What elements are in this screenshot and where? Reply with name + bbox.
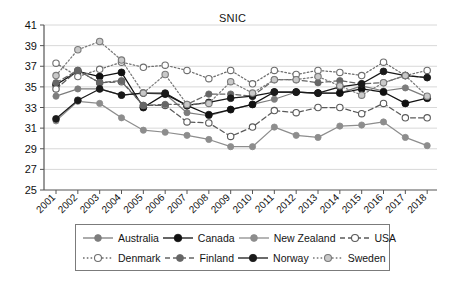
legend-item-usa[interactable]: USA xyxy=(338,231,403,245)
data-point xyxy=(227,133,233,139)
legend-row: AustraliaCanadaNew ZealandUSA xyxy=(81,228,384,248)
data-point xyxy=(184,101,190,107)
legend-marker xyxy=(174,234,182,242)
series-line xyxy=(56,101,427,146)
data-point xyxy=(162,101,168,107)
y-axis-tick-label: 41 xyxy=(25,19,37,31)
data-point xyxy=(227,79,233,85)
data-point xyxy=(271,107,277,113)
data-point xyxy=(184,67,190,73)
data-point xyxy=(271,89,278,96)
x-axis-tick-label: 2002 xyxy=(56,191,80,215)
legend-symbol-sweden xyxy=(311,251,345,265)
data-point xyxy=(359,122,365,128)
series-line xyxy=(56,42,427,105)
chart-legend: AustraliaCanadaNew ZealandUSA DenmarkFin… xyxy=(75,224,390,271)
legend-marker xyxy=(249,254,256,261)
data-point xyxy=(424,115,430,121)
data-point xyxy=(293,132,299,138)
legend-item-finland[interactable]: Finland xyxy=(163,251,236,265)
y-axis-tick-label: 29 xyxy=(25,143,37,155)
data-point xyxy=(358,80,365,87)
data-point xyxy=(315,90,322,97)
data-point xyxy=(162,129,168,135)
data-point xyxy=(97,100,103,106)
series-line xyxy=(56,62,427,84)
data-point xyxy=(96,66,102,72)
y-axis-tick-label: 33 xyxy=(25,102,37,114)
data-point xyxy=(140,127,146,133)
y-axis-tick-label: 37 xyxy=(25,60,37,72)
legend-item-denmark[interactable]: Denmark xyxy=(81,251,163,265)
legend-marker xyxy=(95,235,102,242)
x-axis-tick-label: 2005 xyxy=(121,191,145,215)
data-point xyxy=(75,73,81,79)
legend-label: USA xyxy=(375,232,397,244)
data-point xyxy=(206,75,212,81)
data-point xyxy=(96,38,102,44)
data-point xyxy=(380,68,387,75)
data-point xyxy=(140,64,146,70)
data-point xyxy=(315,104,321,110)
legend-symbol-australia xyxy=(81,231,115,245)
legend-item-new-zealand[interactable]: New Zealand xyxy=(237,231,338,245)
legend-item-canada[interactable]: Canada xyxy=(161,231,237,245)
legend-label: Canada xyxy=(198,232,235,244)
data-point xyxy=(249,124,255,130)
data-point xyxy=(271,96,277,102)
data-point xyxy=(380,59,386,65)
data-point xyxy=(227,95,234,102)
data-point xyxy=(424,93,430,99)
series-usa xyxy=(53,67,431,139)
data-point xyxy=(380,80,386,86)
x-axis-tick-label: 2012 xyxy=(274,191,298,215)
x-axis-tick-label: 2004 xyxy=(99,191,123,215)
data-point xyxy=(402,72,408,78)
legend-marker xyxy=(351,235,358,242)
data-point xyxy=(424,67,430,73)
series-canada xyxy=(53,68,431,118)
x-axis-tick-label: 2015 xyxy=(340,191,364,215)
x-axis-tick-label: 2017 xyxy=(383,191,407,215)
legend-item-australia[interactable]: Australia xyxy=(81,231,161,245)
data-point xyxy=(380,119,386,125)
data-point xyxy=(162,90,169,97)
data-point xyxy=(118,69,125,76)
data-point xyxy=(380,89,387,96)
x-axis-tick-label: 2016 xyxy=(361,191,385,215)
x-axis-tick-label: 2006 xyxy=(143,191,167,215)
legend-item-sweden[interactable]: Sweden xyxy=(311,251,392,265)
data-point xyxy=(96,80,102,86)
x-axis-tick-label: 2003 xyxy=(78,191,102,215)
legend-label: New Zealand xyxy=(274,232,336,244)
data-point xyxy=(184,132,190,138)
legend-symbol-denmark xyxy=(81,251,115,265)
legend-label: Norway xyxy=(273,252,309,264)
data-point xyxy=(337,83,343,89)
legend-marker xyxy=(95,255,102,262)
data-point xyxy=(184,110,190,116)
data-point xyxy=(206,100,212,106)
data-point xyxy=(293,89,300,96)
data-point xyxy=(402,85,408,91)
legend-symbol-finland xyxy=(163,251,197,265)
data-point xyxy=(53,86,59,92)
data-point xyxy=(162,71,168,77)
data-point xyxy=(271,76,277,82)
data-point xyxy=(162,62,168,68)
data-point xyxy=(402,100,409,107)
data-point xyxy=(227,67,233,73)
data-point xyxy=(293,76,299,82)
legend-item-norway[interactable]: Norway xyxy=(236,251,311,265)
data-point xyxy=(118,92,125,99)
x-axis-tick-label: 2018 xyxy=(405,191,429,215)
data-point xyxy=(227,106,234,113)
legend-symbol-usa xyxy=(338,231,372,245)
data-point xyxy=(380,100,386,106)
data-point xyxy=(118,77,124,83)
series-norway xyxy=(53,68,431,122)
data-point xyxy=(337,123,343,129)
data-point xyxy=(184,119,190,125)
data-point xyxy=(402,134,408,140)
data-point xyxy=(140,102,146,108)
